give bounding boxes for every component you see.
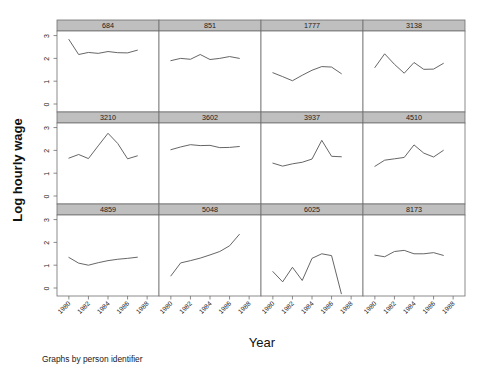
panel: 3602 [159,112,261,204]
panel: 3138 [363,20,465,112]
panel-plot-area [261,31,363,112]
panel-plot-area [57,123,159,204]
panel: 684 [57,20,159,112]
panel-plot-area [159,123,261,204]
panel: 6025 [261,204,363,296]
panel-title: 3138 [406,21,422,30]
panel-title: 4510 [406,113,422,122]
panel: 1777 [261,20,363,112]
panel-plot-area [159,31,261,112]
y-tick-label: 3 [43,218,50,222]
small-multiples-line-chart: 6848511777313832103602393745104859504860… [0,0,504,376]
panel-plot-area [363,31,465,112]
panel-plot-area [159,215,261,296]
panel-title: 3937 [304,113,320,122]
panel: 3210 [57,112,159,204]
y-tick-label: 2 [43,57,50,61]
x-axis-title: Year [249,335,276,350]
panel-plot-area [57,31,159,112]
panel-title: 6025 [304,205,320,214]
panel-title: 851 [204,21,216,30]
y-tick-label: 0 [43,194,50,198]
panel: 8173 [363,204,465,296]
panel: 5048 [159,204,261,296]
panel-plot-area [57,215,159,296]
panel-plot-area [261,215,363,296]
y-tick-label: 3 [43,34,50,38]
y-tick-label: 2 [43,241,50,245]
y-tick-label: 0 [43,102,50,106]
panel-plot-area [261,123,363,204]
panels-layer: 6848511777313832103602393745104859504860… [57,20,465,296]
panel-title: 4859 [100,205,116,214]
y-axis-title: Log hourly wage [10,118,25,221]
panel-title: 3210 [100,113,116,122]
panel-title: 8173 [406,205,422,214]
panel-title: 3602 [202,113,218,122]
panel-plot-area [363,123,465,204]
panel-title: 684 [102,21,114,30]
panel: 4510 [363,112,465,204]
y-tick-label: 1 [43,172,50,176]
y-tick-label: 3 [43,126,50,130]
y-tick-label: 0 [43,286,50,290]
y-tick-label: 1 [43,264,50,268]
figure-container: 6848511777313832103602393745104859504860… [0,0,504,376]
figure-note: Graphs by person identifier [42,354,143,364]
y-tick-label: 2 [43,149,50,153]
y-tick-label: 1 [43,80,50,84]
panel: 4859 [57,204,159,296]
panel-title: 5048 [202,205,218,214]
panel: 3937 [261,112,363,204]
panel-title: 1777 [304,21,320,30]
panel: 851 [159,20,261,112]
